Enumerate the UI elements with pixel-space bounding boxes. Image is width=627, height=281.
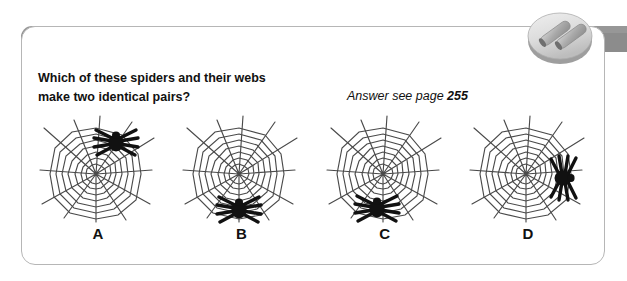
two-rods-disc-icon xyxy=(518,6,602,68)
spider-web-icon xyxy=(34,112,162,224)
options-row: A B xyxy=(30,112,596,252)
spider-icon xyxy=(551,156,576,200)
option-d[interactable]: D xyxy=(460,112,596,242)
question-text: Which of these spiders and their webs ma… xyxy=(38,69,318,107)
spider-web-icon xyxy=(464,112,592,224)
option-label-d: D xyxy=(460,225,596,242)
spider-web-icon xyxy=(177,112,305,224)
answer-reference: Answer see page 255 xyxy=(347,89,468,103)
spider-icon xyxy=(94,130,138,155)
option-label-c: C xyxy=(317,225,453,242)
difficulty-badge xyxy=(518,6,602,68)
answer-prefix: Answer see page xyxy=(347,89,444,103)
option-label-a: A xyxy=(30,225,166,242)
option-a[interactable]: A xyxy=(30,112,166,242)
answer-page-number: 255 xyxy=(447,89,468,103)
option-label-b: B xyxy=(173,225,309,242)
question-line-1: Which of these spiders and their webs xyxy=(38,69,318,88)
option-b[interactable]: B xyxy=(173,112,309,242)
question-line-2: make two identical pairs? xyxy=(38,88,318,107)
option-c[interactable]: C xyxy=(317,112,453,242)
spider-web-icon xyxy=(321,112,449,224)
